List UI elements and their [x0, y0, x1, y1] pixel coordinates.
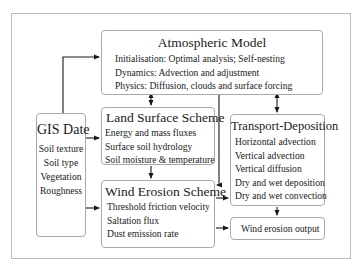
atmos-item: Initialisation: Optimal analysis; Self-n… [115, 52, 322, 66]
transport-deposition-box: Transport-Deposition Horizontal advectio… [230, 114, 325, 206]
gis-item: Soil texture [37, 142, 85, 156]
gis-data-title: GIS Date [37, 122, 85, 138]
land-item: Energy and mass fluxes [105, 126, 214, 140]
land-surface-title: Land Surface Scheme [102, 110, 214, 126]
wind-item: Saltation flux [107, 214, 214, 228]
transport-deposition-title: Transport-Deposition [231, 118, 324, 134]
output-label: Wind erosion output [231, 218, 324, 239]
wind-erosion-title: Wind Erosion Scheme [102, 184, 214, 200]
wind-erosion-scheme-box: Wind Erosion Scheme Threshold friction v… [101, 180, 215, 248]
land-item: Surface soil hydrology [105, 140, 214, 154]
wind-item: Dust emission rate [107, 227, 214, 241]
transport-item: Vertical advection [235, 149, 324, 163]
land-item: Soil moisture & temperature [105, 153, 214, 167]
transport-item: Dry and wet deposition [235, 176, 324, 190]
arrow-gis-to-atmos [63, 57, 99, 113]
wind-item: Threshold friction velocity [107, 200, 214, 214]
gis-item: Roughness [37, 184, 85, 198]
arrow-atmos-to-wind [217, 95, 219, 185]
wind-erosion-output-box: Wind erosion output [230, 217, 325, 240]
atmospheric-model-title: Atmospheric Model [102, 35, 322, 51]
gis-data-box: GIS Date Soil texture Soil type Vegetati… [36, 113, 86, 237]
atmos-item: Dynamics: Advection and adjustment [115, 66, 322, 80]
transport-item: Horizontal advection [235, 135, 324, 149]
gis-item: Vegetation [37, 170, 85, 184]
transport-item: Vertical diffusion [235, 162, 324, 176]
land-surface-scheme-box: Land Surface Scheme Energy and mass flux… [101, 107, 215, 165]
atmospheric-model-box: Atmospheric Model Initialisation: Optima… [101, 30, 323, 95]
atmos-item: Physics: Diffusion, clouds and surface f… [115, 79, 322, 93]
gis-item: Soil type [37, 156, 85, 170]
transport-item: Dry and wet convection [235, 189, 324, 203]
